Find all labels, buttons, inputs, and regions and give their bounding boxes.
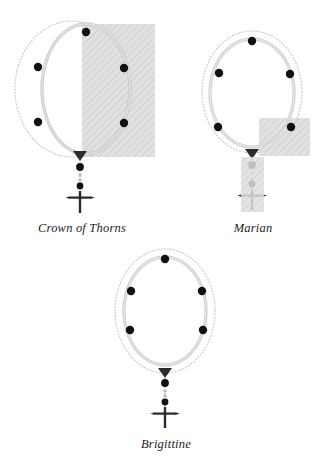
marker-bead bbox=[34, 63, 42, 71]
marker-bead bbox=[286, 70, 294, 78]
marker-bead bbox=[248, 37, 256, 45]
marker-bead bbox=[287, 123, 295, 131]
pendant-bead bbox=[161, 379, 169, 387]
caption-brigittine: Brigittine bbox=[131, 437, 201, 452]
marker-bead bbox=[126, 326, 134, 334]
pendant-bead bbox=[76, 163, 84, 171]
marker-bead bbox=[215, 69, 223, 77]
marker-bead bbox=[199, 326, 207, 334]
caption-crown-of-thorns: Crown of Thorns bbox=[20, 221, 144, 236]
pendant-bead bbox=[162, 399, 169, 406]
highlight-rectangle-pendant bbox=[241, 157, 264, 212]
crucifix-icon bbox=[66, 191, 96, 213]
highlight-rectangle-loop bbox=[259, 118, 310, 156]
marker-bead bbox=[34, 118, 42, 126]
marker-bead bbox=[161, 255, 169, 263]
pendant-bead-small bbox=[163, 394, 166, 397]
brigittine-svg bbox=[100, 240, 235, 430]
marian-svg bbox=[190, 0, 323, 215]
crucifix-icon bbox=[151, 407, 181, 428]
marker-bead bbox=[127, 287, 135, 295]
figure-crown-of-thorns bbox=[0, 0, 200, 215]
pendant-bead-small bbox=[163, 389, 166, 392]
outer-ring bbox=[115, 249, 215, 373]
marker-bead bbox=[120, 64, 128, 72]
pendant-bead bbox=[77, 183, 84, 190]
marker-bead bbox=[120, 119, 128, 127]
marker-bead bbox=[214, 123, 222, 131]
caption-marian: Marian bbox=[222, 221, 284, 236]
pendant-bead-small bbox=[78, 173, 81, 176]
figure-marian bbox=[190, 0, 323, 215]
bead-chain-core bbox=[124, 257, 206, 365]
marker-bead bbox=[198, 287, 206, 295]
diagram-canvas: Crown of Thorns bbox=[0, 0, 323, 466]
figure-brigittine bbox=[100, 240, 235, 430]
marker-bead bbox=[82, 28, 90, 36]
crown-of-thorns-svg bbox=[0, 0, 200, 215]
pendant-bead-small bbox=[78, 178, 81, 181]
